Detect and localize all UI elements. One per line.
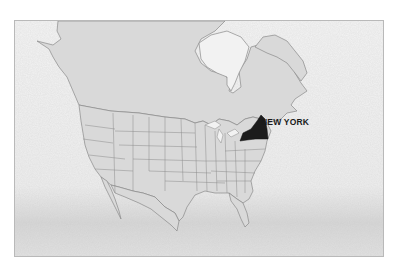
new-york-label: NEW YORK bbox=[261, 117, 309, 127]
north-america-map bbox=[15, 21, 384, 257]
map-frame bbox=[14, 20, 384, 257]
